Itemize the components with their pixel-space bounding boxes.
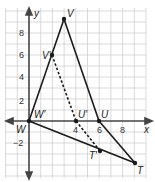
label-T: T: [137, 165, 144, 176]
point-V: [62, 17, 66, 21]
y-tick-6: 6: [19, 50, 24, 60]
label-Uprime: U′: [78, 109, 88, 120]
y-tick-neg2: −2: [13, 138, 23, 148]
y-axis-arrow-up-icon: [26, 8, 32, 15]
label-U: U: [101, 109, 109, 120]
y-tick-8: 8: [19, 28, 24, 38]
label-V: V: [67, 8, 75, 19]
y-axis-label: y: [33, 8, 40, 19]
label-Vprime: V′: [42, 50, 52, 61]
y-axis-arrow-down-icon: [26, 172, 32, 179]
x-axis-arrow-left-icon: [6, 118, 13, 124]
label-Tprime: T′: [89, 150, 98, 161]
segment-VU: [64, 19, 99, 121]
y-tick-2: 2: [19, 96, 24, 106]
label-W: W: [16, 124, 27, 135]
x-tick-6: 6: [97, 125, 102, 135]
label-Wprime: W′: [34, 109, 46, 120]
y-tick-4: 4: [19, 72, 24, 82]
x-axis-label: x: [143, 124, 150, 135]
point-Tprime: [98, 149, 102, 153]
point-W: [27, 119, 31, 123]
axes: [6, 8, 152, 179]
grid: [5, 8, 146, 178]
x-tick-8: 8: [120, 125, 125, 135]
x-tick-4: 4: [73, 125, 78, 135]
coordinate-plane: y x 8 6 4 2 −2 4 6 8 V V′ U U′ T T′ W: [0, 0, 155, 182]
original-figure: [29, 19, 135, 163]
segment-WV: [29, 19, 64, 121]
